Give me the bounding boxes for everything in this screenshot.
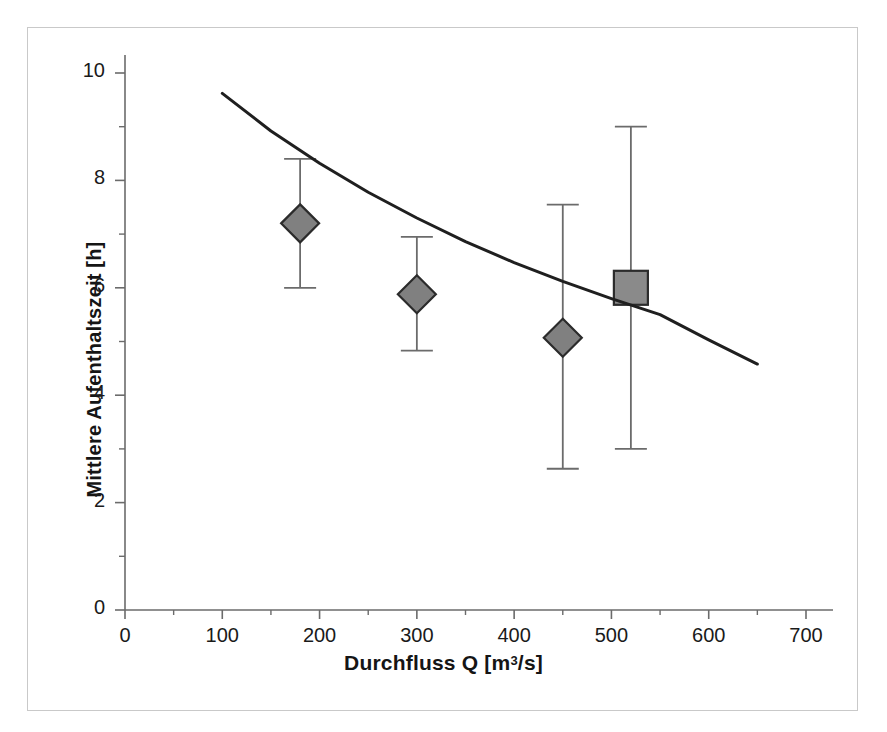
y-tick-label: 8 [45,166,105,189]
x-tick-label: 300 [387,624,447,647]
x-tick-label: 400 [484,624,544,647]
figure-frame: Mittlere Aufenthaltszeit [h] 01002003004… [27,27,858,711]
x-axis-title: Durchfluss Q [m3/s] [0,651,887,675]
x-axis-title-suffix: /s] [518,651,543,674]
y-tick-label: 6 [45,274,105,297]
series-0 [281,159,582,469]
x-tick-label: 0 [95,624,155,647]
x-tick-label: 200 [290,624,350,647]
y-tick-label: 4 [45,381,105,404]
y-tick-label: 0 [45,596,105,619]
x-tick-label: 700 [776,624,836,647]
y-tick-label: 2 [45,489,105,512]
data-marker-diamond [398,275,436,313]
scatter-plot-canvas [28,28,857,710]
data-marker-diamond [281,204,319,242]
figure-page: Mittlere Aufenthaltszeit [h] 01002003004… [0,0,887,732]
data-marker-diamond [544,319,582,357]
y-tick-label: 10 [45,59,105,82]
series-1 [614,127,648,449]
x-tick-label: 600 [679,624,739,647]
x-axis-title-exponent: 3 [510,653,517,668]
x-tick-label: 500 [581,624,641,647]
x-axis-title-prefix: Durchfluss Q [m [344,651,510,674]
x-tick-label: 100 [192,624,252,647]
